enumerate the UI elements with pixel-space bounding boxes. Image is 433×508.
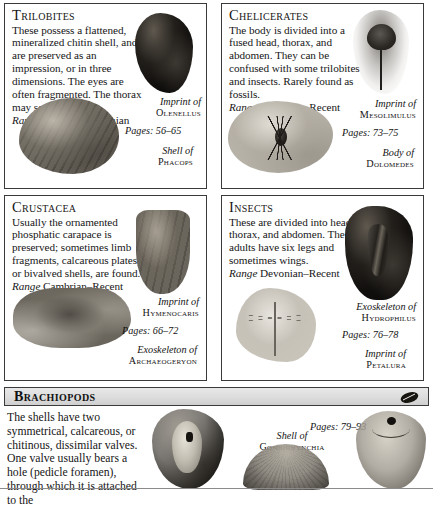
- description-text: The body is divided into a fused head, t…: [229, 24, 360, 101]
- pages-reference: Pages: 56–65: [125, 125, 181, 136]
- caption-hydrophilus: Exoskeleton of Hydrophilus: [312, 301, 416, 324]
- description-text: These are divided into head, thorax, and…: [229, 216, 354, 267]
- caption-genus: Hydrophilus: [312, 312, 416, 323]
- caption-phacops: Shell of Phacops: [93, 145, 193, 168]
- caption-dolomedes: Body of Dolomedes: [322, 147, 414, 170]
- dragonfly-wings: [244, 306, 306, 330]
- brachiopods-description: The shells have two symmetrical, calcare…: [7, 411, 147, 508]
- caption-prefix: Imprint of: [158, 296, 199, 307]
- caption-petalura: Imprint of Petalura: [300, 348, 406, 371]
- brachiopod-shell-icon: [400, 392, 419, 403]
- caption-prefix: Shell of: [277, 430, 308, 441]
- caption-genus: Archaeogeryon: [77, 355, 197, 366]
- caption-prefix: Exoskeleton of: [137, 344, 197, 355]
- caption-prefix: Shell of: [162, 145, 193, 156]
- caption-prefix: Imprint of: [365, 348, 406, 359]
- caption-prefix: Imprint of: [160, 96, 201, 107]
- caption-archaeogeryon: Exoskeleton of Archaeogeryon: [77, 344, 197, 367]
- caption-genus: Petalura: [300, 359, 406, 370]
- brachiopods-heading: Brachiopods: [14, 389, 96, 405]
- caption-genus: Phacops: [93, 156, 193, 167]
- page-bottom-rule: [0, 488, 433, 489]
- caption-olenellus: Imprint of Olenellus: [109, 96, 201, 119]
- panel-chelicerates: Chelicerates The body is divided into a …: [221, 3, 424, 189]
- panel-description: These are divided into head, thorax, and…: [229, 216, 361, 281]
- telson-spine: [380, 50, 382, 90]
- caption-genus: Hymenocaris: [103, 307, 199, 318]
- pages-reference: Pages: 76–78: [342, 329, 398, 340]
- caption-prefix: Imprint of: [375, 98, 416, 109]
- caption-genus: Olenellus: [109, 107, 201, 118]
- goniorhynchia-foramen: [186, 432, 193, 442]
- panel-crustacea: Crustacea Usually the ornamented phospha…: [4, 195, 207, 381]
- caption-hymenocaris: Imprint of Hymenocaris: [103, 296, 199, 319]
- panel-grid: Trilobites These possess a flattened, mi…: [4, 3, 429, 381]
- caption-prefix: Body of: [383, 147, 414, 158]
- panel-trilobites: Trilobites These possess a flattened, mi…: [4, 3, 207, 189]
- panel-description: Usually the ornamented phosphatic carapa…: [12, 216, 144, 294]
- beetle-elytra: [368, 224, 388, 276]
- caption-genus: Mesolimulus: [320, 109, 416, 120]
- panel-insects: Insects These are divided into head, tho…: [221, 195, 424, 381]
- caption-genus: Dolomedes: [322, 158, 414, 169]
- pages-reference: Pages: 66–72: [122, 325, 178, 336]
- range-label: Range: [229, 267, 257, 279]
- range-value: Devonian–Recent: [260, 267, 339, 279]
- spider-legs: [256, 116, 306, 160]
- description-text: Usually the ornamented phosphatic carapa…: [12, 216, 140, 280]
- pedicle-foramen-hole: [387, 417, 396, 425]
- carapace-shape: [367, 24, 396, 50]
- pages-reference: Pages: 73–75: [342, 127, 398, 138]
- caption-prefix: Exoskeleton of: [356, 301, 416, 312]
- specimen-hymenocaris-imprint: [136, 210, 190, 294]
- brachiopods-header-bar: Brachiopods: [4, 387, 429, 406]
- caption-mesolimulus: Imprint of Mesolimulus: [320, 98, 416, 121]
